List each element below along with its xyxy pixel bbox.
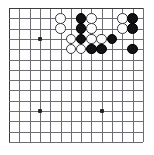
white-stone bbox=[117, 23, 128, 34]
black-stone bbox=[96, 44, 107, 55]
white-stone bbox=[55, 13, 66, 24]
go-board-diagram bbox=[0, 0, 154, 155]
white-stone bbox=[117, 13, 128, 24]
white-stone bbox=[76, 44, 87, 55]
white-stone bbox=[66, 44, 77, 55]
white-stone bbox=[55, 23, 66, 34]
white-stone bbox=[86, 34, 97, 45]
black-stone bbox=[76, 34, 87, 45]
black-stone bbox=[127, 13, 138, 24]
black-stone bbox=[127, 23, 138, 34]
black-stone bbox=[76, 13, 87, 24]
white-stone bbox=[96, 34, 107, 45]
black-stone bbox=[86, 44, 97, 55]
black-stone bbox=[76, 23, 87, 34]
black-stone bbox=[127, 44, 138, 55]
white-stone bbox=[86, 23, 97, 34]
white-stone bbox=[66, 34, 77, 45]
stones-layer bbox=[0, 0, 154, 155]
black-stone bbox=[107, 34, 118, 45]
white-stone bbox=[86, 13, 97, 24]
